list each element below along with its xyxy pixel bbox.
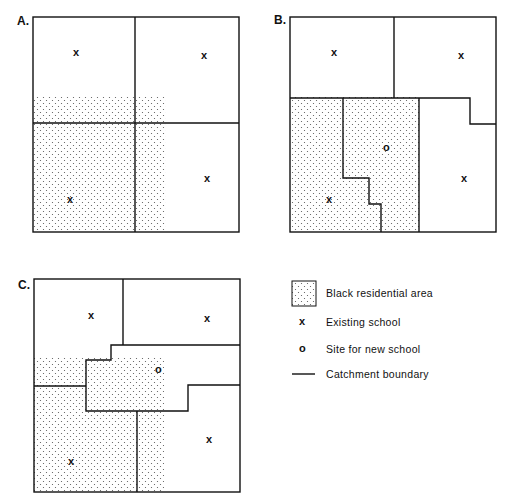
legend-new-site-label: Site for new school [326,343,420,355]
existing-school-marker: x [67,193,73,205]
panel-a-map [33,17,239,232]
legend-graphics [292,281,316,374]
legend-residential-label: Black residential area [326,287,433,299]
legend-boundary-label: Catchment boundary [326,368,429,380]
panel-b-map [290,17,496,232]
existing-school-marker: x [326,193,332,205]
existing-school-marker: x [206,433,212,445]
existing-school-marker: x [204,312,210,324]
existing-school-marker: x [204,172,210,184]
legend-o-symbol: o [299,342,306,354]
existing-school-marker: x [68,455,74,467]
catchment-diagram [0,0,509,501]
existing-school-marker: x [458,49,464,61]
residential-area-b [290,95,419,232]
new-school-site-marker: o [383,141,390,153]
existing-school-marker: x [88,309,94,321]
existing-school-marker: x [461,172,467,184]
panel-a-label: A. [17,14,29,28]
new-school-site-marker: o [155,363,162,375]
residential-area-a [33,97,166,232]
panel-c-label: C. [18,278,30,292]
legend-existing-label: Existing school [326,316,401,328]
panel-b-label: B. [274,13,286,27]
panel-c-map [34,279,240,492]
existing-school-marker: x [331,46,337,58]
legend-x-symbol: x [299,315,305,327]
residential-area-c [34,357,164,492]
existing-school-marker: x [201,49,207,61]
existing-school-marker: x [73,46,79,58]
